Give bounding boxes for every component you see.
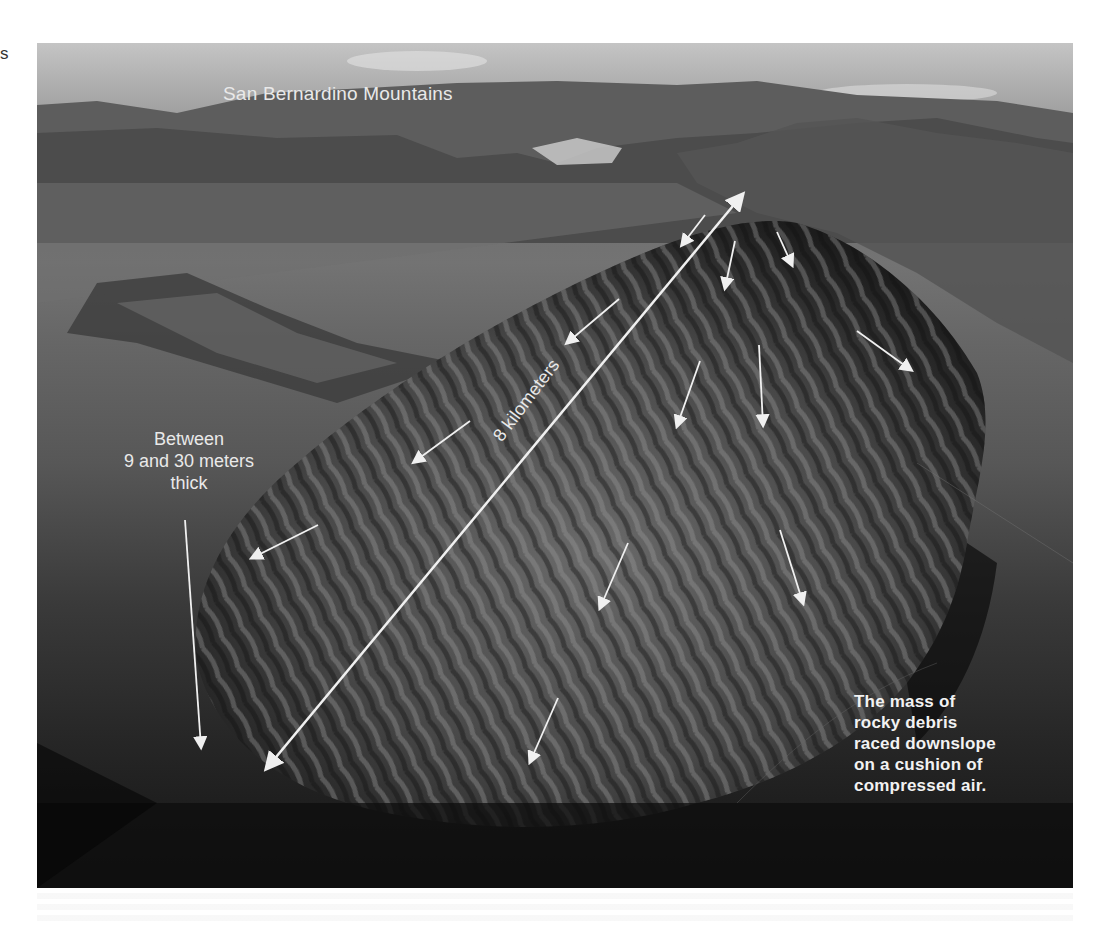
caption-line: The mass of [854,691,996,712]
caption-annotation: The mass of rocky debris raced downslope… [854,691,996,796]
aerial-photo: San Bernardino Mountains Between 9 and 3… [37,43,1073,888]
caption-line: compressed air. [854,775,996,796]
thickness-label: Between 9 and 30 meters thick [89,428,289,494]
caption-line: on a cushion of [854,754,996,775]
caption-line: raced downslope [854,733,996,754]
margin-text-fragment: s [0,44,9,64]
mountains-label: San Bernardino Mountains [223,83,453,105]
distance-double-arrow-icon [267,195,742,768]
bleed-through-text [37,893,1073,923]
flow-direction-arrows-icon [252,215,911,762]
thickness-label-line: Between [89,428,289,450]
caption-line: rocky debris [854,712,996,733]
thickness-label-line: thick [89,472,289,494]
thickness-label-line: 9 and 30 meters [89,450,289,472]
thickness-arrow-icon [185,520,201,747]
